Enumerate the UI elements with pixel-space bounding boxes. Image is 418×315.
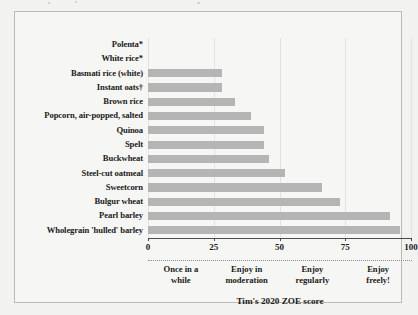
- category-label: Popcorn, air-popped, salted: [15, 109, 143, 122]
- category-label: Bulgur wheat: [15, 195, 143, 208]
- x-tick-label: 25: [209, 242, 218, 252]
- category-label: Spelt: [15, 138, 143, 151]
- bar-row: [148, 81, 411, 94]
- band-label-line: Once in a: [163, 264, 198, 275]
- band-label: Enjoyfreely!: [366, 264, 390, 285]
- bar-row: [148, 181, 411, 194]
- band-label: Once in awhile: [163, 264, 198, 285]
- x-tick-label: 100: [404, 242, 418, 252]
- bar: [148, 198, 340, 206]
- bar-row: [148, 209, 411, 222]
- x-tick-label: 0: [146, 242, 151, 252]
- bar-row: [148, 224, 411, 237]
- category-label: Buckwheat: [15, 152, 143, 165]
- x-tick: [345, 238, 346, 241]
- bar: [148, 112, 251, 120]
- bar-series: [148, 38, 411, 238]
- chart-figure-frame: Polenta*White rice*Basmati rice (white)I…: [14, 11, 402, 303]
- bar-row: [148, 124, 411, 137]
- paper-speckles: [0, 0, 416, 11]
- band-divider-rule: [148, 260, 412, 261]
- band-label-line: while: [163, 275, 198, 286]
- bar: [148, 141, 264, 149]
- bar-row: [148, 152, 411, 165]
- bar-row: [148, 52, 411, 65]
- bar: [148, 69, 222, 77]
- category-label: Polenta*: [15, 38, 143, 51]
- bar-row: [148, 109, 411, 122]
- bar-row: [148, 138, 411, 151]
- category-label: White rice*: [15, 52, 143, 65]
- category-label: Pearl barley: [15, 209, 143, 222]
- bar-row: [148, 167, 411, 180]
- band-label-line: regularly: [296, 275, 330, 286]
- x-tick-label: 50: [275, 242, 284, 252]
- category-label: Sweetcorn: [15, 181, 143, 194]
- category-label: Steel-cut oatmeal: [15, 167, 143, 180]
- bar: [148, 155, 269, 163]
- category-label: Basmati rice (white): [15, 67, 143, 80]
- band-label: Enjoy inmoderation: [225, 264, 268, 285]
- bar: [148, 169, 285, 177]
- x-tick: [148, 238, 149, 241]
- bar: [148, 83, 222, 91]
- band-label-line: Enjoy: [296, 264, 330, 275]
- category-label: Quinoa: [15, 124, 143, 137]
- x-tick-label: 75: [341, 242, 350, 252]
- x-tick: [214, 238, 215, 241]
- x-tick: [411, 238, 412, 241]
- x-tick: [280, 238, 281, 241]
- category-label: Wholegrain 'hulled' barley: [15, 224, 143, 237]
- gridline-100: [411, 38, 412, 238]
- bar: [148, 98, 235, 106]
- band-label-line: Enjoy in: [225, 264, 268, 275]
- bar: [148, 126, 264, 134]
- band-label-line: Enjoy: [366, 264, 390, 275]
- bar-row: [148, 195, 411, 208]
- bar: [148, 212, 390, 220]
- bar-row: [148, 67, 411, 80]
- score-band-annotations: Once in awhileEnjoy inmoderationEnjoyreg…: [148, 264, 412, 290]
- band-label-line: moderation: [225, 275, 268, 286]
- bar-row: [148, 38, 411, 51]
- category-label: Brown rice: [15, 95, 143, 108]
- bar: [148, 226, 400, 234]
- category-axis-labels: Polenta*White rice*Basmati rice (white)I…: [15, 38, 143, 238]
- bar: [148, 183, 322, 191]
- band-label-line: freely!: [366, 275, 390, 286]
- chart-caption: Tim's 2020 ZOE score: [148, 296, 412, 306]
- bar-row: [148, 95, 411, 108]
- category-label: Instant oats†: [15, 81, 143, 94]
- band-label: Enjoyregularly: [296, 264, 330, 285]
